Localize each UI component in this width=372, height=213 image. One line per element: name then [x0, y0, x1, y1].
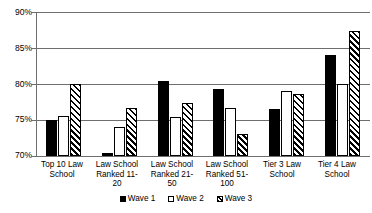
bar-wave-3	[70, 84, 81, 156]
bar-wave-2	[170, 117, 181, 156]
bar-chart: 90% 85% 80% 75% 70% Top 10 LawSchool Law…	[0, 0, 372, 213]
x-axis-label-line: Law School	[199, 160, 255, 170]
y-axis-tick-label-90: 90%	[0, 8, 32, 16]
legend-label-wave-3: Wave 3	[225, 194, 252, 203]
legend-item-wave-2: Wave 2	[168, 194, 203, 203]
legend-swatch-wave-3-icon	[217, 196, 223, 202]
x-axis-label-line: Ranked 21-	[144, 170, 200, 180]
x-axis-label-group-0: Top 10 LawSchool	[34, 160, 90, 179]
x-axis-label-line: Law School	[144, 160, 200, 170]
x-axis-label-line: School	[34, 170, 90, 180]
bar-wave-3	[126, 108, 137, 156]
y-axis-tick-label-75: 75%	[0, 115, 32, 123]
x-axis-label-group-2: Law SchoolRanked 21-50	[144, 160, 200, 189]
bar-wave-3	[349, 31, 360, 156]
bar-wave-1	[325, 55, 336, 156]
plot-area	[36, 12, 370, 156]
bar-wave-1	[102, 153, 113, 156]
y-axis-tick-label-85: 85%	[0, 44, 32, 52]
x-axis-label-line: Ranked 11-	[89, 170, 145, 180]
x-axis-label-line: Law School	[89, 160, 145, 170]
x-axis-label-line: 50	[144, 179, 200, 189]
bar-group	[203, 12, 259, 156]
bar-wave-1	[158, 81, 169, 156]
bar-wave-2	[337, 84, 348, 156]
bar-wave-3	[237, 134, 248, 156]
bar-wave-1	[213, 89, 224, 156]
x-axis-label-line: 20	[89, 179, 145, 189]
y-axis-tick-label-70: 70%	[0, 151, 32, 159]
bar-group	[36, 12, 92, 156]
legend-label-wave-2: Wave 2	[176, 194, 203, 203]
x-axis-label-line: Ranked 51-	[199, 170, 255, 180]
x-axis-label-group-3: Law SchoolRanked 51-100	[199, 160, 255, 189]
x-axis-baseline	[36, 156, 370, 157]
y-axis-tick-label-80: 80%	[0, 80, 32, 88]
bar-wave-1	[46, 120, 57, 156]
x-axis-label-line: Tier 4 Law	[309, 160, 365, 170]
bar-group	[314, 12, 370, 156]
x-axis-label-line: 100	[199, 179, 255, 189]
bar-wave-2	[58, 116, 69, 156]
bar-group	[259, 12, 315, 156]
bar-group	[92, 12, 148, 156]
bar-wave-3	[182, 103, 193, 156]
bar-wave-2	[281, 91, 292, 156]
chart-legend: Wave 1 Wave 2 Wave 3	[0, 194, 372, 203]
x-axis-label-line: Top 10 Law	[34, 160, 90, 170]
x-axis-label-group-4: Tier 3 LawSchool	[254, 160, 310, 179]
legend-item-wave-3: Wave 3	[217, 194, 252, 203]
x-axis-label-group-5: Tier 4 LawSchool	[309, 160, 365, 179]
x-axis-label-line: School	[254, 170, 310, 180]
legend-item-wave-1: Wave 1	[120, 194, 155, 203]
bar-wave-2	[114, 127, 125, 156]
x-axis-label-group-1: Law SchoolRanked 11-20	[89, 160, 145, 189]
legend-swatch-wave-2-icon	[168, 196, 174, 202]
bar-group	[147, 12, 203, 156]
legend-swatch-wave-1-icon	[120, 196, 126, 202]
x-axis-label-line: School	[309, 170, 365, 180]
x-axis-label-line: Tier 3 Law	[254, 160, 310, 170]
bar-wave-1	[269, 109, 280, 156]
bar-wave-2	[225, 108, 236, 156]
bar-wave-3	[293, 94, 304, 156]
legend-label-wave-1: Wave 1	[128, 194, 155, 203]
